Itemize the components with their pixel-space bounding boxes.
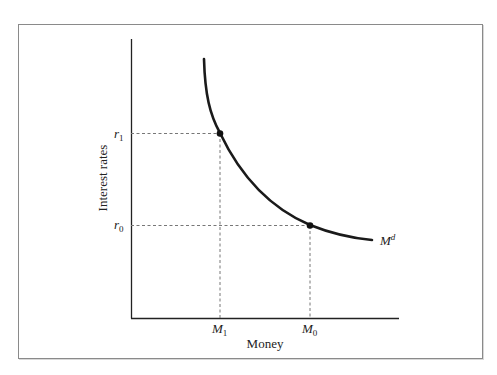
tick-label-m0: M0 bbox=[301, 321, 318, 338]
tick-label-m1: M1 bbox=[211, 321, 227, 338]
tick-label-r0: r0 bbox=[114, 217, 124, 234]
y-axis-title: Interest rates bbox=[95, 145, 110, 212]
curve-label-md: Md bbox=[379, 232, 396, 248]
x-axis-title: Money bbox=[247, 336, 284, 351]
money-demand-diagram: r1 r0 M1 M0 Money Interest rates Md bbox=[0, 0, 497, 375]
money-demand-curve bbox=[204, 59, 372, 240]
point-m1-r1 bbox=[217, 130, 224, 137]
tick-label-r1: r1 bbox=[114, 126, 124, 143]
point-m0-r0 bbox=[307, 222, 314, 229]
